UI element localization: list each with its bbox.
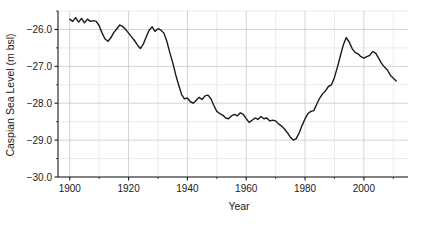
plot-axes bbox=[58, 11, 408, 177]
y-axis-title: Caspian Sea Level (m bsl) bbox=[4, 33, 16, 156]
x-axis-title: Year bbox=[228, 200, 250, 212]
minor-gridlines bbox=[58, 11, 408, 177]
y-axis-tick-labels: −26.0−27.0−28.0−29.0−30.0 bbox=[27, 24, 53, 183]
x-tick-label: 1900 bbox=[59, 183, 82, 194]
x-axis-tick-labels: 190019201940196019802000 bbox=[59, 183, 376, 194]
y-tick-label: −27.0 bbox=[27, 61, 53, 72]
x-tick-label: 1980 bbox=[294, 183, 317, 194]
major-gridlines bbox=[58, 11, 408, 177]
x-tick-label: 2000 bbox=[353, 183, 376, 194]
caspian-sea-level-line-chart: 190019201940196019802000 −26.0−27.0−28.0… bbox=[0, 0, 421, 227]
x-tick-label: 1920 bbox=[117, 183, 140, 194]
axis-ticks bbox=[55, 11, 394, 181]
x-tick-label: 1940 bbox=[176, 183, 199, 194]
y-tick-label: −30.0 bbox=[27, 172, 53, 183]
chart-figure: 190019201940196019802000 −26.0−27.0−28.0… bbox=[0, 0, 421, 227]
y-tick-label: −29.0 bbox=[27, 135, 53, 146]
x-tick-label: 1960 bbox=[235, 183, 258, 194]
y-tick-label: −28.0 bbox=[27, 98, 53, 109]
y-tick-label: −26.0 bbox=[27, 24, 53, 35]
